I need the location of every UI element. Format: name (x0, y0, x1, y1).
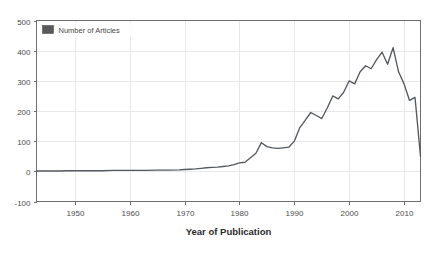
y-tick-label: 300 (17, 78, 31, 87)
legend-swatch-number-of-articles (43, 26, 54, 34)
legend-label-number-of-articles: Number of Articles (59, 26, 121, 35)
x-tick-label: 1970 (177, 209, 195, 218)
y-tick-label: 200 (17, 108, 31, 117)
line-chart: -1000100200300400500 1950196019701980199… (0, 0, 442, 254)
x-tick-label: 1990 (286, 209, 304, 218)
chart-container: -1000100200300400500 1950196019701980199… (0, 0, 442, 254)
y-tick-label: 400 (17, 48, 31, 57)
y-tick-label: 500 (17, 18, 31, 27)
x-tick-label: 2010 (396, 209, 414, 218)
x-tick-label: 1980 (231, 209, 249, 218)
x-axis-title: Year of Publication (186, 226, 272, 237)
chart-legend: Number of Articles (40, 23, 135, 37)
x-tick-label: 2000 (341, 209, 359, 218)
y-tick-label: 100 (17, 138, 31, 147)
x-tick-label: 1950 (67, 209, 85, 218)
x-tick-label: 1960 (122, 209, 140, 218)
y-tick-label: -100 (14, 199, 31, 208)
y-tick-label: 0 (26, 168, 31, 177)
